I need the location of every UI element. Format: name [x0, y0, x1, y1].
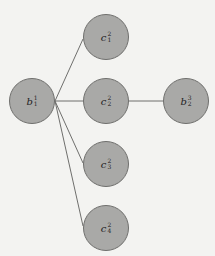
label-base: c [101, 32, 107, 43]
node-c24: c 24 [83, 205, 129, 251]
node-label: c 22 [101, 95, 111, 107]
node-label: b 11 [26, 95, 37, 107]
node-c23: c 23 [83, 141, 129, 187]
label-sub: 4 [107, 228, 111, 234]
label-base: b [180, 96, 186, 107]
node-label: c 23 [101, 158, 111, 170]
edge-b11-c24 [55, 101, 83, 226]
node-c21: c 21 [83, 14, 129, 60]
label-sub: 2 [107, 101, 111, 107]
label-base: c [101, 223, 107, 234]
label-base: b [26, 96, 32, 107]
edge-b11-c21 [55, 39, 83, 101]
node-label: c 24 [101, 222, 111, 234]
node-label: b 32 [180, 95, 191, 107]
node-b11: b 11 [9, 78, 55, 124]
node-b32: b 32 [163, 78, 209, 124]
label-sub: 1 [107, 37, 111, 43]
diagram-canvas: b 11 c 21 c 22 b 32 c 23 c 24 [0, 0, 215, 256]
label-base: c [101, 96, 107, 107]
label-sub: 2 [188, 101, 192, 107]
label-sub: 3 [107, 164, 111, 170]
node-c22: c 22 [83, 78, 129, 124]
node-label: c 21 [101, 31, 111, 43]
edge-b11-c23 [55, 101, 83, 163]
label-base: c [101, 159, 107, 170]
label-sub: 1 [34, 101, 38, 107]
